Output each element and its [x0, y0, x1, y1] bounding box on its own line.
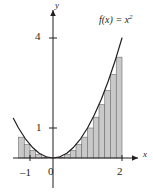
y-axis-arrowhead — [50, 10, 56, 16]
riemann-rect-right-10 — [111, 75, 117, 158]
riemann-rect-right-3 — [70, 151, 76, 159]
riemann-rect-right-7 — [93, 117, 99, 158]
function-annotation-exponent: 2 — [129, 13, 133, 21]
riemann-rect-right-6 — [88, 128, 94, 158]
x-tick-label-zero: 0 — [48, 166, 54, 177]
riemann-rect-left-0 — [19, 137, 25, 158]
y-axis-label: y — [55, 1, 59, 10]
function-annotation: f(x) = x2 — [99, 14, 133, 25]
riemann-rectangles-right — [59, 57, 122, 158]
y-tick-label-one: 1 — [36, 122, 42, 133]
x-tick-label-two: 2 — [117, 166, 123, 177]
riemann-rect-left-1 — [24, 145, 30, 158]
riemann-rect-right-11 — [116, 57, 122, 158]
riemann-rect-right-5 — [82, 137, 88, 158]
x-axis-label: x — [143, 150, 147, 159]
x-tick-label-neg1: –1 — [20, 167, 31, 178]
riemann-rect-right-8 — [99, 105, 105, 158]
riemann-rect-right-9 — [105, 91, 111, 159]
function-annotation-base: f(x) = x — [99, 14, 129, 25]
x-axis-arrowhead — [132, 155, 138, 161]
math-figure: –1 0 2 1 4 x y f(x) = x2 — [0, 0, 153, 195]
y-tick-label-four: 4 — [35, 31, 41, 42]
riemann-rect-right-4 — [76, 145, 82, 158]
riemann-rect-left-2 — [30, 151, 36, 159]
